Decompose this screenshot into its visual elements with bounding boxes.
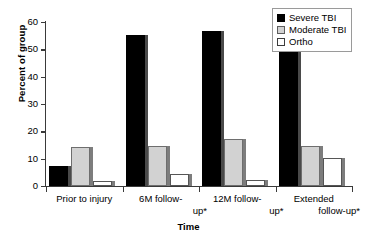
bar <box>224 139 246 186</box>
legend-label: Severe TBI <box>289 13 336 23</box>
y-tick-label: 20 <box>14 126 38 136</box>
legend-swatch-icon <box>277 38 285 46</box>
bar-body <box>126 35 145 186</box>
bar-shadow <box>265 180 268 186</box>
bar <box>170 174 192 186</box>
bar-body <box>148 146 167 186</box>
y-tick-label: 50 <box>14 44 38 54</box>
x-tick-mark <box>123 187 124 192</box>
bar-body <box>93 181 112 186</box>
bar-body <box>323 158 342 186</box>
chart-legend: Severe TBIModerate TBIOrtho <box>272 8 352 52</box>
bar <box>148 146 170 186</box>
bar-body <box>202 31 221 186</box>
bar-body <box>224 139 243 186</box>
x-tick-label-line: Extended <box>268 193 361 205</box>
bar <box>246 180 268 186</box>
x-axis-title: Time <box>0 221 377 232</box>
bar <box>93 181 115 186</box>
bar <box>71 147 93 186</box>
x-tick-label: Extendedfollow-up* <box>268 193 361 216</box>
legend-item: Severe TBI <box>277 12 346 24</box>
legend-swatch-icon <box>277 26 285 34</box>
x-tick-mark <box>199 187 200 192</box>
bar-body <box>301 146 320 186</box>
bar-shadow <box>112 181 115 186</box>
bar <box>323 158 345 186</box>
x-tick-mark <box>352 187 353 192</box>
bar-body <box>246 180 265 186</box>
y-tick-label: 10 <box>14 154 38 164</box>
bar-shadow <box>189 174 192 186</box>
bar-body <box>170 174 189 186</box>
bar-body <box>49 166 68 186</box>
bar <box>126 35 148 186</box>
bar <box>49 166 71 186</box>
bar <box>301 146 323 186</box>
x-tick-mark <box>276 187 277 192</box>
bar-chart: Percent of group 0102030405060 Prior to … <box>0 0 377 242</box>
bar-shadow <box>342 158 345 186</box>
legend-swatch-icon <box>277 14 285 22</box>
bar <box>279 49 301 186</box>
y-tick-label: 30 <box>14 99 38 109</box>
y-tick-label: 60 <box>14 17 38 27</box>
legend-item: Ortho <box>277 36 346 48</box>
bar-body <box>71 147 90 186</box>
legend-item: Moderate TBI <box>277 24 346 36</box>
legend-label: Ortho <box>289 37 313 47</box>
legend-label: Moderate TBI <box>289 25 346 35</box>
y-tick-label: 0 <box>14 181 38 191</box>
bar-body <box>279 49 298 186</box>
bar <box>202 31 224 186</box>
y-tick-label: 40 <box>14 72 38 82</box>
x-tick-mark <box>46 187 47 192</box>
x-tick-label-line: follow-up* <box>268 205 361 217</box>
